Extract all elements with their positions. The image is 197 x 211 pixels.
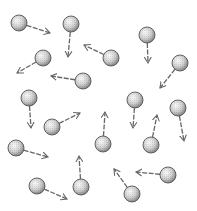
particles [8,15,188,202]
velocity-arrow-icon [160,69,175,88]
particle [44,119,60,135]
particle [170,100,186,116]
velocity-arrow-icon [179,116,184,141]
particle [29,178,45,194]
particle [160,167,176,183]
velocity-arrow-icon [84,45,104,55]
gas-particles-diagram [0,0,197,211]
particle [11,15,27,31]
particle [139,27,155,43]
velocity-arrow-icon [51,76,75,80]
particle [73,179,89,195]
velocity-arrow-icon [27,25,50,33]
particle [35,50,51,66]
velocity-arrow-icon [103,112,105,136]
velocity-arrow-icon [79,156,80,179]
velocity-arrow-icon [133,108,134,128]
velocity-arrow-icon [153,115,157,137]
particle [8,140,24,156]
particle [172,55,188,71]
particle [143,137,159,153]
particle [124,186,140,202]
particles-canvas [0,0,197,211]
velocity-arrow-icon [59,113,80,123]
particle [95,136,111,152]
velocity-arrow-icon [136,172,160,174]
velocity-arrow-icon [68,32,70,57]
particle [103,50,119,66]
particle [75,73,91,89]
velocity-arrow-icon [24,150,48,157]
velocity-arrow-icon [44,189,67,199]
particle [21,90,37,106]
particle [63,16,79,32]
velocity-arrow-icon [17,62,36,73]
particle [127,92,143,108]
velocity-arrow-icon [30,106,31,128]
velocity-arrow-icon [114,169,127,188]
velocity-arrow-icon [147,43,148,63]
